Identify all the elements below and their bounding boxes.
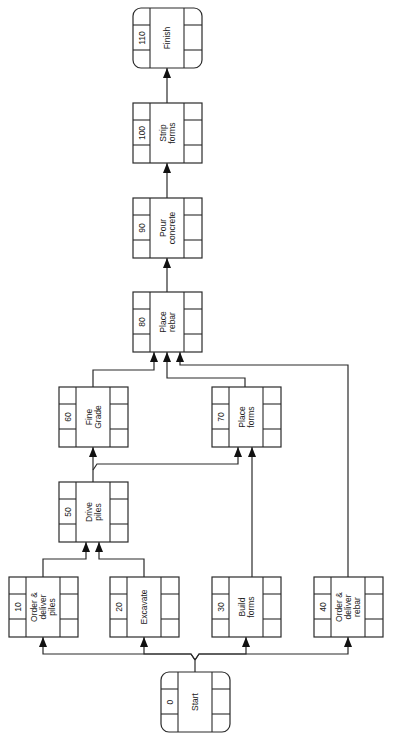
activity-name: Placerebar: [158, 311, 177, 333]
activity-name-line: forms: [246, 596, 256, 617]
edge-60-80: [93, 352, 158, 387]
edge-30-70: [248, 447, 256, 577]
arrowhead-icon: [82, 542, 90, 552]
activity-id: 80: [137, 317, 147, 327]
arrowhead-icon: [150, 352, 158, 362]
edge-50-70: [93, 447, 242, 470]
activity-node-70: 70Placeforms: [212, 387, 281, 447]
activity-id: 70: [216, 412, 226, 422]
arrowhead-icon: [248, 447, 256, 457]
activity-node-10: 10Order &deliverpiles: [9, 577, 78, 637]
arrowhead-icon: [95, 542, 103, 552]
arrowhead-icon: [39, 637, 47, 647]
activity-node-90: 90Pourconcrete: [133, 198, 202, 258]
arrowhead-icon: [242, 637, 250, 647]
edge-line: [93, 352, 154, 387]
edge-line: [43, 542, 86, 577]
edge-70-80: [163, 352, 245, 387]
activity-id: 90: [137, 223, 147, 233]
activity-node-60: 60FineGrade: [59, 387, 128, 447]
activity-name: Stripforms: [158, 122, 177, 143]
activity-id: 10: [13, 602, 23, 612]
arrowhead-icon: [89, 447, 97, 457]
activity-node-40: 40Order &deliverrebar: [314, 577, 383, 637]
activity-node-20: 20Excavate: [110, 577, 179, 637]
activity-name-line: rebar: [352, 597, 362, 617]
activity-name-line: forms: [246, 406, 256, 427]
precedence-diagram: 0Start10Order &deliverpiles20Excavate30B…: [0, 0, 398, 736]
activity-id: 110: [137, 31, 147, 45]
edge-0-40: [195, 637, 352, 660]
arrowhead-icon: [163, 352, 171, 362]
edge-50-60: [89, 447, 97, 482]
edge-0-20: [140, 637, 195, 660]
edge-20-50: [95, 542, 144, 577]
activity-name: Start: [190, 692, 200, 711]
activity-id: 100: [137, 126, 147, 140]
edge-90-100: [163, 163, 171, 198]
activity-name-line: forms: [167, 122, 177, 143]
edge-line: [195, 637, 348, 660]
activity-node-50: 50Drivepiles: [59, 482, 128, 542]
activity-name: Buildforms: [237, 596, 256, 617]
nodes-layer: 0Start10Order &deliverpiles20Excavate30B…: [9, 8, 383, 732]
activity-name-line: Start: [190, 692, 200, 711]
arrowhead-icon: [163, 163, 171, 173]
activity-id: 40: [318, 602, 328, 612]
edge-10-50: [43, 542, 90, 577]
activity-node-110: 110Finish: [133, 8, 202, 68]
activity-name-line: concrete: [167, 211, 177, 244]
activity-id: 20: [114, 602, 124, 612]
activity-node-80: 80Placerebar: [133, 292, 202, 352]
activity-id: 0: [165, 699, 175, 704]
activity-node-30: 30Buildforms: [212, 577, 281, 637]
activity-name-line: rebar: [167, 312, 177, 332]
activity-id: 30: [216, 602, 226, 612]
activity-name: Finish: [162, 26, 172, 49]
activity-id: 60: [63, 412, 73, 422]
activity-name-line: Finish: [162, 26, 172, 49]
arrowhead-icon: [344, 637, 352, 647]
activity-name-line: piles: [93, 503, 103, 520]
activity-name: Placeforms: [237, 406, 256, 428]
arrowhead-icon: [176, 352, 184, 362]
arrowhead-icon: [140, 637, 148, 647]
edge-100-110: [163, 68, 171, 103]
activity-node-100: 100Stripforms: [133, 103, 202, 163]
arrowhead-icon: [163, 68, 171, 78]
activity-node-0: 0Start: [161, 672, 230, 732]
edge-line: [99, 542, 144, 577]
edge-80-90: [163, 258, 171, 292]
activity-name-line: Excavate: [139, 589, 149, 624]
activity-name: Excavate: [139, 589, 149, 624]
activity-name: Drivepiles: [84, 502, 103, 522]
edge-0-30: [195, 637, 250, 660]
arrowhead-icon: [234, 447, 242, 457]
activity-name-line: piles: [47, 598, 57, 615]
edge-line: [195, 637, 246, 660]
activity-name-line: Grade: [93, 405, 103, 429]
arrowhead-icon: [163, 258, 171, 268]
edge-line: [144, 637, 195, 660]
activity-id: 50: [63, 507, 73, 517]
edge-line: [93, 447, 238, 470]
